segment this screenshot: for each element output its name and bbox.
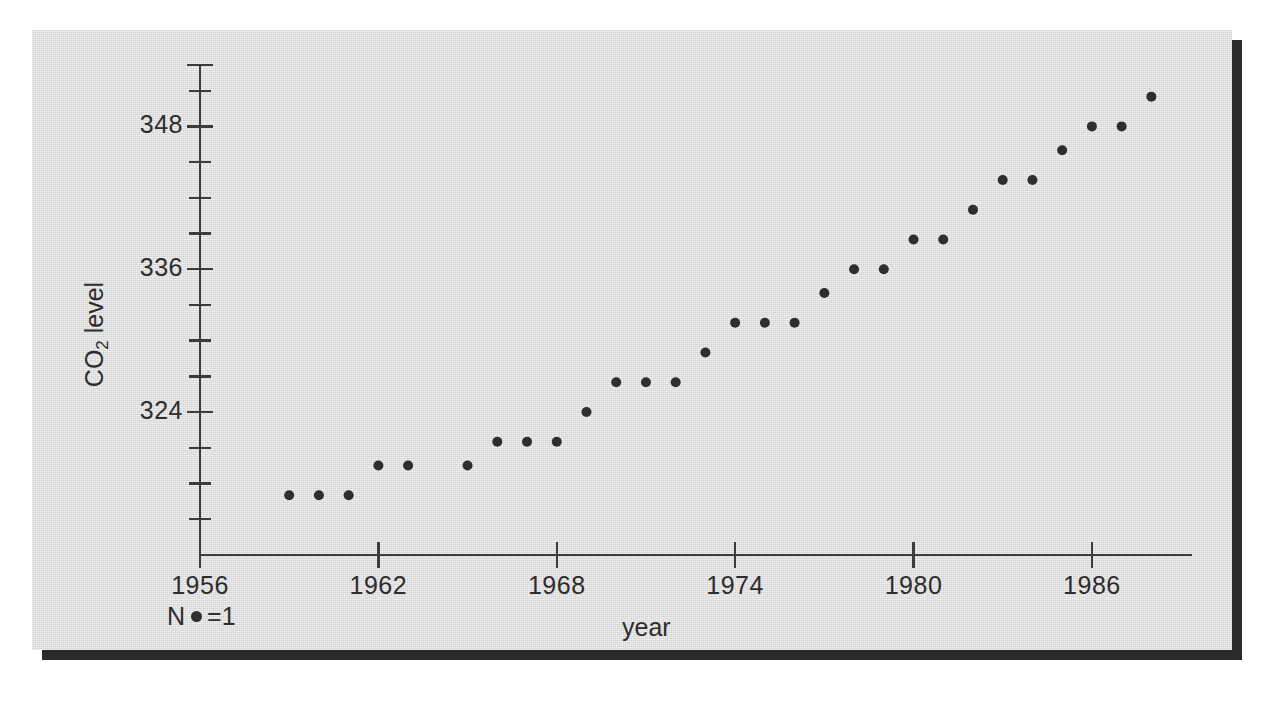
data-point <box>819 288 829 298</box>
data-point <box>641 377 651 387</box>
data-point <box>314 490 324 500</box>
legend-n-equals: =1 <box>207 602 236 631</box>
y-tick-label: 348 <box>45 110 183 139</box>
data-point <box>522 437 532 447</box>
y-axis-title-text: CO <box>80 350 108 388</box>
data-point <box>909 234 919 244</box>
data-point <box>1027 175 1037 185</box>
data-point <box>463 461 473 471</box>
data-point <box>1117 121 1127 131</box>
x-tick-label: 1980 <box>854 571 974 600</box>
y-axis-title-suffix: level <box>80 282 108 340</box>
x-tick-label: 1962 <box>318 571 438 600</box>
y-axis-title: CO2 level <box>80 245 109 425</box>
x-tick-label: 1986 <box>1032 571 1152 600</box>
data-point <box>611 377 621 387</box>
data-point <box>1146 92 1156 102</box>
data-point <box>373 461 383 471</box>
data-point <box>938 234 948 244</box>
data-point <box>998 175 1008 185</box>
data-point <box>790 318 800 328</box>
data-point <box>760 318 770 328</box>
data-point <box>552 437 562 447</box>
data-point <box>1087 121 1097 131</box>
data-point <box>730 318 740 328</box>
y-tick-label: 324 <box>45 396 183 425</box>
plot-area: 324336348 195619621968197419801986 CO2 l… <box>32 30 1232 650</box>
data-point <box>581 407 591 417</box>
data-point <box>968 205 978 215</box>
sample-size-legend: N =1 <box>167 602 236 631</box>
x-tick-label: 1974 <box>675 571 795 600</box>
legend-n-prefix: N <box>167 602 185 631</box>
data-point <box>284 490 294 500</box>
figure-panel: 324336348 195619621968197419801986 CO2 l… <box>32 30 1232 650</box>
dot-marker-icon <box>191 611 202 622</box>
x-tick-label: 1956 <box>140 571 260 600</box>
data-point <box>492 437 502 447</box>
data-point <box>1057 145 1067 155</box>
data-point <box>403 461 413 471</box>
data-points-group <box>284 92 1156 501</box>
data-point <box>344 490 354 500</box>
data-point <box>879 264 889 274</box>
y-axis-title-subscript: 2 <box>93 340 112 349</box>
x-tick-label: 1968 <box>497 571 617 600</box>
data-point <box>849 264 859 274</box>
y-tick-label: 336 <box>45 253 183 282</box>
axes-group <box>200 65 1192 555</box>
x-axis-title: year <box>622 613 671 642</box>
scatter-plot-canvas <box>32 30 1232 650</box>
data-point <box>700 348 710 358</box>
data-point <box>671 377 681 387</box>
